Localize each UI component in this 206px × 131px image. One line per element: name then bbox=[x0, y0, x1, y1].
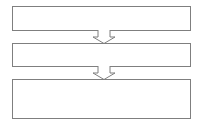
flowchart-node-3[interactable] bbox=[12, 79, 191, 119]
flowchart-node-1[interactable] bbox=[12, 6, 191, 31]
flowchart-node-2[interactable] bbox=[12, 43, 191, 67]
down-block-arrow-icon bbox=[92, 30, 116, 44]
flow-arrow-1 bbox=[92, 30, 116, 44]
flow-arrow-2 bbox=[92, 66, 116, 80]
down-block-arrow-icon bbox=[92, 66, 116, 80]
flowchart-diagram bbox=[0, 0, 206, 131]
